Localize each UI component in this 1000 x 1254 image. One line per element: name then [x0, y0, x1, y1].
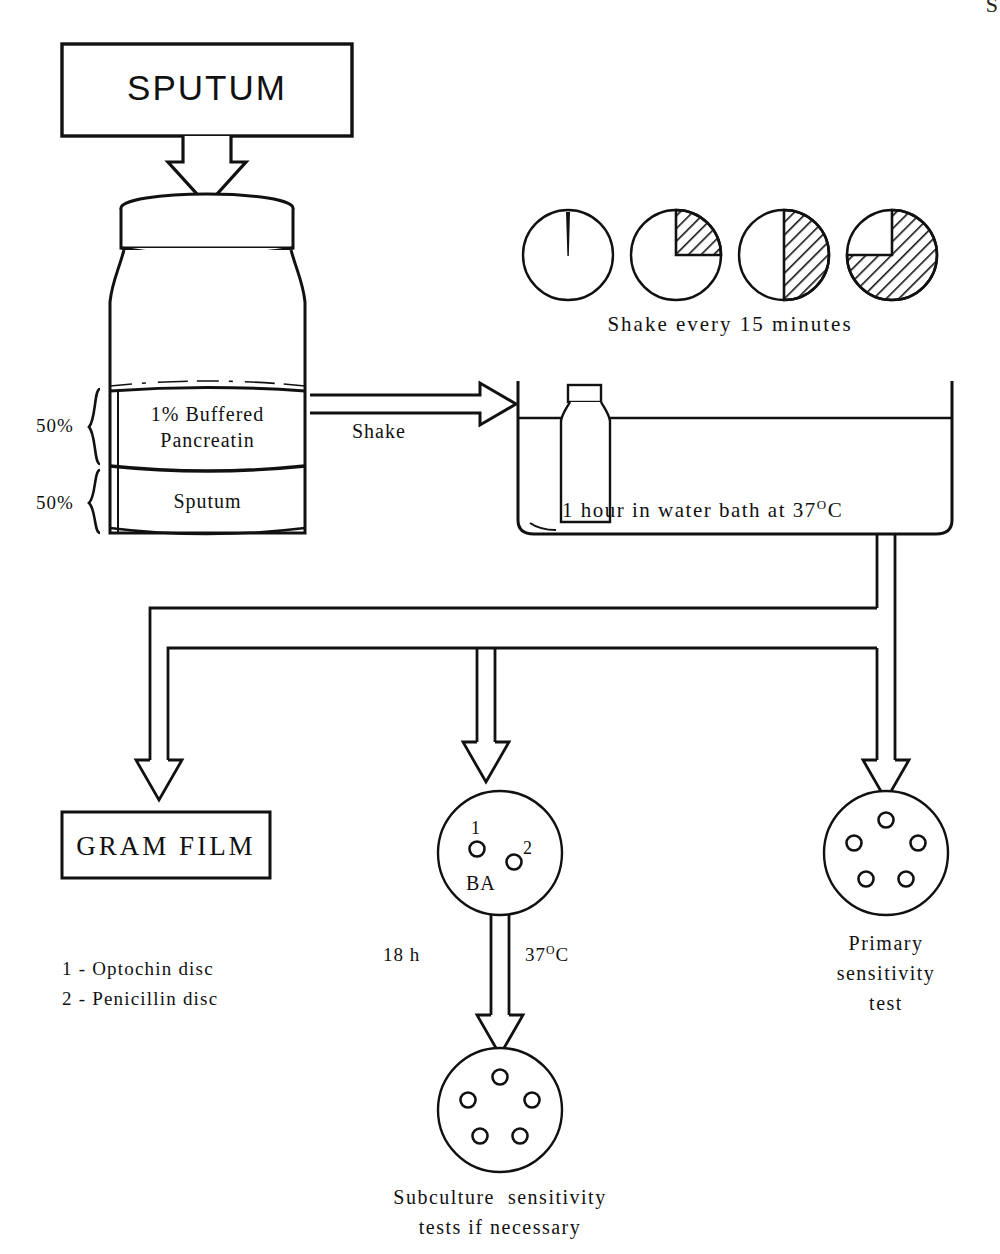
jar-upper-layer-line2: Pancreatin	[110, 428, 305, 453]
page-corner-mark: S	[986, 0, 998, 18]
clock-45-icon	[847, 210, 937, 300]
legend-item-penicillin: 2 - Penicillin disc	[62, 984, 218, 1013]
legend-item-optochin: 1 - Optochin disc	[62, 954, 214, 983]
jar-upper-percent: 50%	[36, 415, 74, 437]
ba-plate-label: BA	[466, 872, 496, 895]
primary-caption-line3: test	[786, 988, 986, 1018]
primary-caption-line1: Primary	[786, 928, 986, 958]
clock-0-icon	[523, 210, 613, 300]
shake-arrow-label: Shake	[352, 420, 406, 443]
ba-disc-2-number: 2	[523, 838, 533, 859]
shake-arrow	[310, 383, 516, 425]
water-bath-caption: 1 hour in water bath at 37OC	[562, 497, 843, 523]
shake-interval-caption: Shake every 15 minutes	[520, 312, 940, 337]
water-bath-caption-text: 1 hour in water bath at 37	[562, 498, 817, 522]
incubation-time-label: 18 h	[383, 944, 420, 966]
clock-30-icon	[739, 210, 829, 300]
branch-bus	[136, 534, 909, 800]
ba-disc-2	[507, 855, 522, 870]
sputum-box-label: SPUTUM	[62, 68, 352, 108]
incubation-degree-symbol: O	[546, 944, 556, 957]
incubation-temp-label: 37OC	[525, 944, 569, 966]
specimen-jar	[89, 194, 305, 534]
jar-upper-layer-line1: 1% Buffered	[110, 402, 305, 427]
primary-caption-line2: sensitivity	[786, 958, 986, 988]
incubation-temp-unit: C	[556, 944, 570, 965]
shake-clock-group	[523, 210, 937, 300]
incubation-temp-value: 37	[525, 944, 546, 965]
flowchart-svg	[0, 0, 1000, 1254]
subculture-plate	[438, 1048, 562, 1172]
subculture-caption-line1: Subculture sensitivity	[330, 1182, 670, 1212]
gram-film-label: GRAM FILM	[62, 831, 270, 862]
primary-sensitivity-plate	[824, 791, 948, 915]
ba-plate	[438, 791, 562, 915]
ba-disc-1-number: 1	[471, 818, 481, 839]
incubation-arrow	[477, 915, 523, 1055]
ba-disc-1	[470, 842, 485, 857]
jar-lower-percent: 50%	[36, 492, 74, 514]
water-bath-caption-unit: C	[828, 498, 844, 522]
diagram-page: SPUTUM 1% Buffered Pancreatin Sputum 50%…	[0, 0, 1000, 1254]
jar-lower-layer: Sputum	[110, 489, 305, 514]
subculture-caption-line2: tests if necessary	[330, 1212, 670, 1242]
degree-symbol: O	[817, 497, 828, 512]
clock-15-icon	[631, 210, 721, 300]
